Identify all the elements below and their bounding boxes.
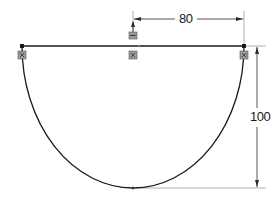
arc-bottom-point[interactable]: [132, 187, 135, 190]
arrowhead-left-icon: [134, 17, 141, 21]
arrowhead-right-icon: [236, 17, 243, 21]
leader-arrow-icon: [131, 21, 135, 27]
coincident-constraint-icon[interactable]: [18, 51, 26, 59]
horizontal-constraint-icon[interactable]: [129, 32, 137, 39]
coincident-constraint-icon[interactable]: [240, 51, 248, 59]
sketch-geometry[interactable]: [22, 46, 244, 188]
coincident-constraint-icon[interactable]: [129, 51, 137, 59]
arrowhead-down-icon: [255, 180, 259, 187]
sketch-canvas[interactable]: [0, 0, 280, 199]
endpoint-left[interactable]: [20, 44, 24, 48]
sketch-points[interactable]: [20, 44, 246, 190]
midpoint[interactable]: [138, 45, 141, 48]
extension-lines: [133, 11, 266, 188]
arrowhead-up-icon: [255, 47, 259, 54]
endpoint-right[interactable]: [242, 44, 246, 48]
dimension-100-label[interactable]: 100: [248, 110, 272, 124]
dimension-80-label[interactable]: 80: [177, 12, 194, 26]
semi-ellipse-arc[interactable]: [22, 46, 244, 188]
midpoint-leader: [131, 21, 135, 32]
